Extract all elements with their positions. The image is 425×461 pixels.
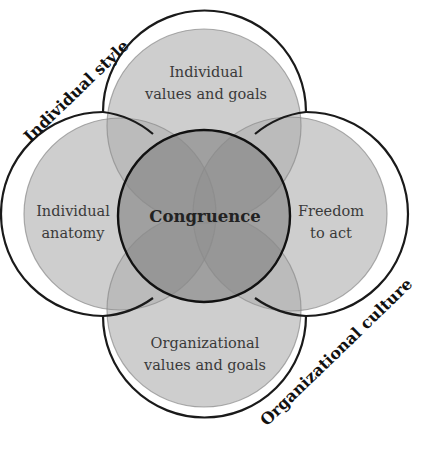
right-circle-label-line2: to act (310, 225, 352, 241)
bottom-circle-label-line2: values and goals (143, 357, 266, 373)
left-circle-label-line1: Individual (36, 203, 110, 219)
bottom-circle-label-line1: Organizational (151, 335, 260, 351)
congruence-venn-diagram: Individual values and goals Individual a… (0, 0, 425, 461)
left-circle-label-line2: anatomy (41, 225, 105, 241)
right-circle-label-line1: Freedom (298, 203, 364, 219)
center-label: Congruence (149, 207, 260, 226)
top-circle-label-line2: values and goals (144, 86, 267, 102)
top-circle-label-line1: Individual (169, 64, 243, 80)
